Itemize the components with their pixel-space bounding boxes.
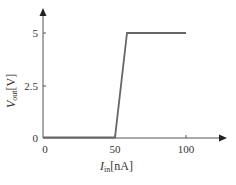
chart: 5 2.5 0 0 50 100 Iin[nA] Vout[V] (0, 0, 236, 185)
x-tick-label: 50 (110, 143, 122, 155)
y-tick-label: 0 (33, 132, 39, 144)
y-axis-unit: [V] (4, 74, 18, 91)
y-tick-label: 5 (33, 27, 39, 39)
y-tick-label: 2.5 (24, 80, 38, 92)
x-axis-label: Iin[nA] (99, 159, 133, 174)
x-axis-unit: [nA] (110, 159, 133, 173)
y-axis-arrow-icon (40, 8, 47, 16)
y-axis-label: Vout[V] (4, 74, 19, 108)
data-series-line (43, 33, 186, 138)
x-axis-arrow-icon (219, 135, 227, 142)
x-tick-label: 100 (178, 143, 195, 155)
x-tick-label: 0 (42, 143, 48, 155)
